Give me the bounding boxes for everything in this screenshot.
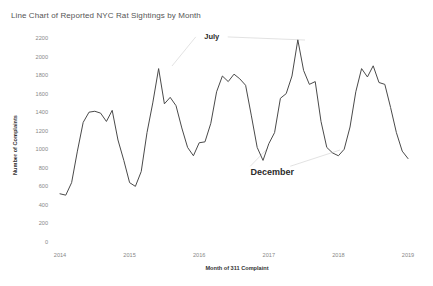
y-tick-400: 400 <box>39 202 48 208</box>
y-tick-1600: 1600 <box>36 91 48 97</box>
y-tick-600: 600 <box>39 183 48 189</box>
x-axis-tick-labels: 201420152016201720182019 <box>54 252 414 258</box>
x-axis-title: Month of 311 Complaint <box>205 265 268 271</box>
y-tick-2000: 2000 <box>36 54 48 60</box>
x-tick-2018: 2018 <box>332 252 344 258</box>
x-tick-2015: 2015 <box>123 252 135 258</box>
leader-july-right <box>228 37 305 40</box>
y-tick-200: 200 <box>39 220 48 226</box>
y-tick-0: 0 <box>45 239 48 245</box>
y-axis-tick-labels: 0200400600800100012001400160018002000220… <box>36 35 48 245</box>
y-tick-800: 800 <box>39 165 48 171</box>
y-tick-1000: 1000 <box>36 146 48 152</box>
y-axis-title: Number of Complaints <box>12 115 18 175</box>
chart-container: Line Chart of Reported NYC Rat Sightings… <box>0 0 433 286</box>
x-tick-2016: 2016 <box>193 252 205 258</box>
line-chart: 0200400600800100012001400160018002000220… <box>0 0 433 286</box>
x-tick-2014: 2014 <box>54 252 66 258</box>
data-line-rat-sightings <box>60 40 408 195</box>
y-tick-1800: 1800 <box>36 72 48 78</box>
y-tick-1400: 1400 <box>36 109 48 115</box>
annotation-july: July <box>204 32 220 41</box>
y-tick-2200: 2200 <box>36 35 48 41</box>
y-tick-1200: 1200 <box>36 128 48 134</box>
annotation-december: December <box>251 167 295 177</box>
x-tick-2017: 2017 <box>263 252 275 258</box>
x-tick-2019: 2019 <box>402 252 414 258</box>
leader-july-left <box>172 37 196 66</box>
